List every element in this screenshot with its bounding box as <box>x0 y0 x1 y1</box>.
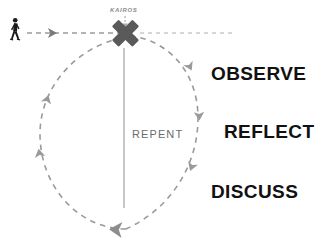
kairos-cycle-diagram: OBSERVE REFLECT DISCUSS REPENT KAIROS <box>0 0 321 250</box>
cycle-arrow-icon-bottom <box>109 221 123 238</box>
cycle-arrow-icon-left <box>33 93 53 157</box>
stage-label-observe: OBSERVE <box>211 64 306 83</box>
stage-label-reflect: REFLECT <box>224 122 314 141</box>
kairos-label: KAIROS <box>110 7 138 13</box>
cycle-arrow-icon <box>183 61 204 173</box>
repent-label: REPENT <box>132 129 183 140</box>
stage-label-discuss: DISCUSS <box>211 182 298 201</box>
entry-path <box>27 28 124 38</box>
walking-person-icon <box>10 18 20 41</box>
